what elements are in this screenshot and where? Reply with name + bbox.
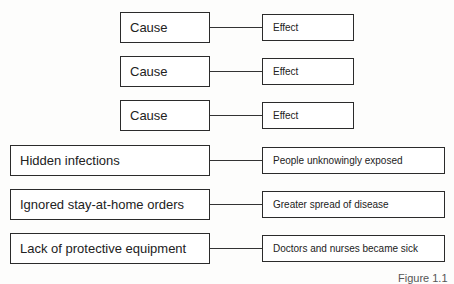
effect-label: People unknowingly exposed [273, 155, 403, 166]
cause-label: Cause [130, 108, 168, 123]
effect-label: Effect [273, 22, 298, 33]
connector-line [210, 115, 262, 116]
connector-line [210, 27, 262, 28]
filled-cause-box-1: Hidden infections [10, 145, 210, 176]
connector-line [210, 160, 262, 161]
effect-label: Effect [273, 110, 298, 121]
cause-label: Lack of protective equipment [20, 241, 186, 256]
cause-label: Cause [130, 64, 168, 79]
figure-caption: Figure 1.1 [398, 272, 448, 284]
effect-label: Effect [273, 66, 298, 77]
filled-effect-box-2: Greater spread of disease [262, 191, 445, 218]
effect-label: Doctors and nurses became sick [273, 243, 418, 254]
cause-label: Ignored stay-at-home orders [20, 197, 184, 212]
template-cause-box-3: Cause [120, 100, 210, 131]
filled-cause-box-2: Ignored stay-at-home orders [10, 189, 210, 220]
template-effect-box-3: Effect [262, 102, 354, 129]
template-cause-box-1: Cause [120, 12, 210, 43]
cause-label: Cause [130, 20, 168, 35]
filled-effect-box-1: People unknowingly exposed [262, 147, 445, 174]
template-effect-box-1: Effect [262, 14, 354, 41]
filled-effect-box-3: Doctors and nurses became sick [262, 235, 445, 262]
cause-label: Hidden infections [20, 153, 120, 168]
connector-line [210, 204, 262, 205]
filled-cause-box-3: Lack of protective equipment [10, 233, 210, 264]
connector-line [210, 248, 262, 249]
connector-line [210, 71, 262, 72]
template-effect-box-2: Effect [262, 58, 354, 85]
template-cause-box-2: Cause [120, 56, 210, 87]
effect-label: Greater spread of disease [273, 199, 389, 210]
